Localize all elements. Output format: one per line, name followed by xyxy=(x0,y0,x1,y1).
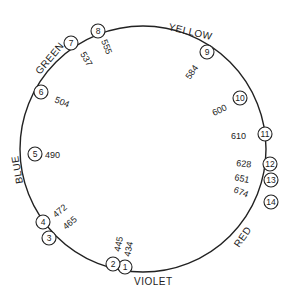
wavelength-label: 674 xyxy=(232,185,250,200)
wavelength-label: 555 xyxy=(99,38,114,56)
wavelength-label: 584 xyxy=(183,63,200,81)
point-11: 11 610 xyxy=(231,127,272,141)
svg-text:13: 13 xyxy=(266,175,276,185)
point-9: 9 584 xyxy=(183,45,214,81)
svg-text:6: 6 xyxy=(39,87,44,97)
svg-text:5: 5 xyxy=(33,149,38,159)
svg-text:1: 1 xyxy=(123,262,128,272)
point-14: 14 674 xyxy=(232,185,278,209)
point-5: 5 490 xyxy=(28,147,60,161)
wavelength-label: 628 xyxy=(236,158,252,170)
wavelength-label: 651 xyxy=(234,172,251,185)
point-12: 12 628 xyxy=(236,157,277,171)
wavelength-label: 537 xyxy=(78,50,94,68)
region-label-red: RED xyxy=(232,224,254,249)
wavelength-label: 600 xyxy=(211,102,229,117)
svg-text:8: 8 xyxy=(96,26,101,36)
point-6: 6 504 xyxy=(34,85,71,109)
svg-text:2: 2 xyxy=(111,259,116,269)
point-8: 8 555 xyxy=(91,24,114,56)
hue-circle xyxy=(20,26,266,272)
svg-text:YELLOW: YELLOW xyxy=(168,21,214,42)
point-7: 7 537 xyxy=(64,36,94,68)
wavelength-label: 434 xyxy=(122,241,135,258)
svg-text:VIOLET: VIOLET xyxy=(134,276,173,287)
region-label-yellow: YELLOW xyxy=(168,21,214,42)
svg-text:9: 9 xyxy=(205,47,210,57)
svg-text:10: 10 xyxy=(235,93,245,103)
point-10: 10 600 xyxy=(211,91,247,118)
svg-text:7: 7 xyxy=(69,38,74,48)
wavelength-label: 504 xyxy=(53,95,71,110)
svg-text:4: 4 xyxy=(41,217,46,227)
svg-text:3: 3 xyxy=(47,233,52,243)
svg-text:RED: RED xyxy=(232,224,254,249)
svg-text:12: 12 xyxy=(265,159,275,169)
svg-text:14: 14 xyxy=(266,197,276,207)
color-circle-diagram: YELLOW GREEN BLUE VIOLET RED 1 434 2 445… xyxy=(0,0,292,297)
svg-text:BLUE: BLUE xyxy=(9,155,25,185)
point-13: 13 651 xyxy=(234,172,278,187)
region-label-blue: BLUE xyxy=(9,155,25,185)
svg-text:11: 11 xyxy=(261,129,270,139)
wavelength-label: 490 xyxy=(45,150,60,160)
wavelength-label: 472 xyxy=(51,202,69,219)
wavelength-label: 610 xyxy=(231,131,246,141)
wavelength-label: 465 xyxy=(61,214,79,231)
region-label-violet: VIOLET xyxy=(134,276,173,287)
